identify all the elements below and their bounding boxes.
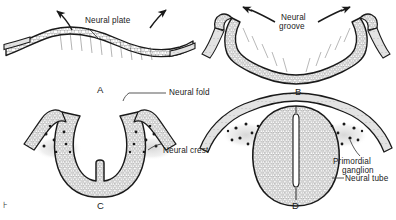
panel-d-neural-tube [200,93,392,206]
label-neural-plate: Neural plate [85,16,130,25]
margin-registration-mark: ⊦ [3,200,8,210]
label-neural-groove-line2: groove [279,22,305,31]
panel-b-arrow-right-tail [318,10,342,22]
panel-b-arrow-right [341,7,350,11]
neural-plate-epithelium [6,27,193,57]
panel-a-arrow-right [150,10,166,28]
label-neural-crest: Neural crest [163,146,208,155]
label-neural-groove-line1: Neural [281,13,306,22]
figure-illustration: Neural plate Neural groove Neural fold N… [0,0,396,220]
panel-b-arrow-left-tail [251,10,275,22]
panel-letter-a: A [97,84,104,95]
panel-c-neural-fold-walls [55,112,146,197]
panel-c-neural-fold [24,93,176,197]
label-neural-tube: Neural tube [345,174,388,183]
panel-letter-b: B [295,86,302,97]
neurulation-diagram-svg [0,0,396,220]
label-neural-fold: Neural fold [169,88,210,97]
panel-b-surface-ectoderm-right [368,28,390,58]
panel-b-surface-ectoderm-left [202,28,224,58]
label-primordial-ganglion-line1: Primordial [333,157,371,166]
panel-c-leader-neural-fold-hook [123,93,129,101]
panel-letter-c: C [97,200,104,211]
panel-a-surface-ectoderm-right [170,43,195,57]
panel-letter-d: D [292,200,299,211]
panel-b-arrow-left [243,7,252,11]
panel-d-central-canal [293,114,299,187]
